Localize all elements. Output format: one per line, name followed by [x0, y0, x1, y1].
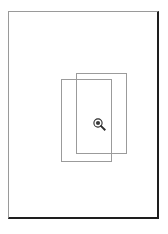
shape-rectangle-2[interactable]	[76, 73, 127, 154]
app-root	[0, 0, 168, 234]
canvas-sheet[interactable]	[8, 11, 159, 219]
